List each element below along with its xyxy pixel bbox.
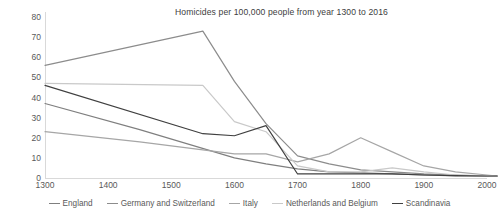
- chart-container: Homicides per 100,000 people from year 1…: [0, 0, 499, 213]
- y-axis-tick-labels: 01020304050607080: [0, 0, 41, 190]
- legend-item-england[interactable]: England: [49, 199, 93, 208]
- y-axis-tick-label: 70: [7, 33, 41, 41]
- legend-item-germany-and-switzerland[interactable]: Germany and Switzerland: [107, 199, 215, 208]
- legend-item-label: Germany and Switzerland: [121, 199, 215, 208]
- y-axis-tick-label: 30: [7, 114, 41, 122]
- series-line-england: [45, 104, 497, 176]
- legend-item-label: England: [63, 199, 93, 208]
- x-axis-tick-label: 1300: [23, 181, 67, 190]
- series-line-italy: [45, 132, 497, 176]
- legend-item-netherlands-and-belgium[interactable]: Netherlands and Belgium: [272, 199, 378, 208]
- legend-swatch-icon: [107, 203, 118, 204]
- legend-item-scandinavia[interactable]: Scandinavia: [392, 199, 451, 208]
- x-axis-tick-label: 1500: [149, 181, 193, 190]
- y-axis-tick-label: 20: [7, 134, 41, 142]
- series-line-germany-and-switzerland: [45, 31, 497, 176]
- legend-swatch-icon: [392, 203, 403, 204]
- legend-item-label: Italy: [243, 199, 258, 208]
- y-axis-tick-label: 60: [7, 53, 41, 61]
- x-axis-tick-label: 1800: [339, 181, 383, 190]
- legend-item-label: Scandinavia: [406, 199, 451, 208]
- y-axis-tick-label: 10: [7, 154, 41, 162]
- chart-title: Homicides per 100,000 people from year 1…: [175, 7, 475, 17]
- y-axis-tick-label: 50: [7, 73, 41, 81]
- y-axis-tick-label: 40: [7, 94, 41, 102]
- x-axis-tick-label: 1400: [86, 181, 130, 190]
- legend-swatch-icon: [229, 203, 240, 204]
- x-axis-line: [45, 178, 487, 179]
- legend-item-italy[interactable]: Italy: [229, 199, 258, 208]
- legend-swatch-icon: [272, 203, 283, 204]
- series-line-scandinavia: [45, 85, 497, 176]
- x-axis-tick-label: 1700: [276, 181, 320, 190]
- legend-item-label: Netherlands and Belgium: [286, 199, 378, 208]
- legend-swatch-icon: [49, 203, 60, 204]
- y-axis-line: [45, 12, 46, 178]
- x-axis-tick-label: 2000: [465, 181, 499, 190]
- chart-legend: EnglandGermany and SwitzerlandItalyNethe…: [0, 194, 499, 213]
- x-axis-tick-label: 1900: [402, 181, 446, 190]
- x-axis-tick-label: 1600: [212, 181, 256, 190]
- y-axis-tick-label: 80: [7, 13, 41, 21]
- series-line-netherlands-and-belgium: [45, 83, 497, 176]
